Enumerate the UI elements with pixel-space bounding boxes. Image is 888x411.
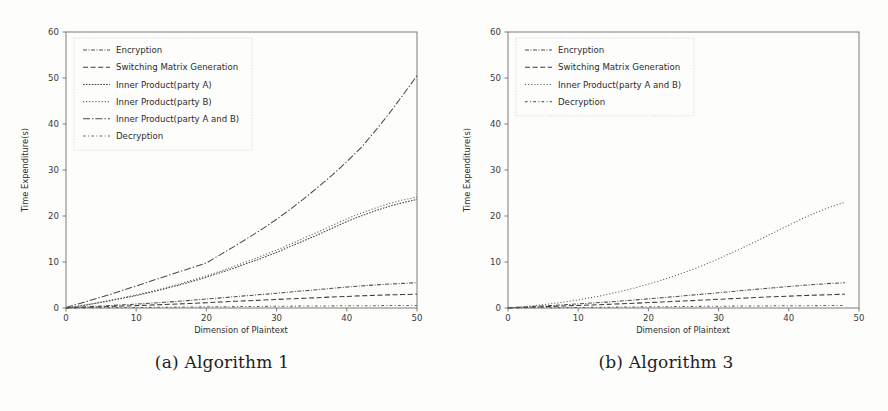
legend-label: Switching Matrix Generation: [116, 62, 238, 72]
legend-label: Decryption: [116, 131, 163, 141]
y-tick-label: 10: [48, 257, 59, 267]
legend-label: Switching Matrix Generation: [558, 62, 680, 72]
y-tick-label: 10: [490, 257, 501, 267]
y-tick-label: 60: [490, 27, 501, 37]
y-tick-label: 50: [490, 73, 501, 83]
y-tick-label: 20: [490, 211, 501, 221]
x-tick-label: 50: [854, 313, 865, 323]
chart-svg-a: 0102030405060 01020304050 EncryptionSwit…: [0, 0, 444, 355]
y-tick-label: 0: [54, 303, 59, 313]
legend-label: Inner Product(party A and B): [558, 80, 681, 90]
y-axis-title-b: Time Expenditure(s): [462, 128, 472, 213]
legend-label: Inner Product(party A and B): [116, 114, 239, 124]
legend-label: Inner Product(party B): [116, 97, 212, 107]
y-tick-label: 40: [490, 119, 501, 129]
plot-frame-b: [508, 32, 859, 308]
subplot-b: 0102030405060 01020304050 EncryptionSwit…: [444, 0, 888, 355]
x-tick-label: 50: [412, 313, 423, 323]
x-ticks-a: 01020304050: [63, 308, 422, 323]
y-tick-label: 60: [48, 27, 59, 37]
panel-algorithm-1: 0102030405060 01020304050 EncryptionSwit…: [0, 0, 444, 411]
series-group-a: [66, 76, 417, 308]
series-line: [508, 283, 845, 308]
caption-a: (a) Algorithm 1: [0, 352, 444, 372]
y-tick-label: 0: [496, 303, 501, 313]
legend-label: Decryption: [558, 97, 605, 107]
x-tick-label: 0: [505, 313, 510, 323]
x-tick-label: 0: [63, 313, 68, 323]
x-tick-label: 40: [783, 313, 794, 323]
subplot-a: 0102030405060 01020304050 EncryptionSwit…: [0, 0, 444, 355]
y-ticks-b: 0102030405060: [490, 27, 508, 313]
y-axis-title-a: Time Expenditure(s): [20, 128, 30, 213]
legend-b: EncryptionSwitching Matrix GenerationInn…: [516, 38, 694, 116]
y-tick-label: 40: [48, 119, 59, 129]
y-tick-label: 20: [48, 211, 59, 221]
x-tick-label: 20: [643, 313, 654, 323]
legend-label: Encryption: [116, 45, 162, 55]
legend-a: EncryptionSwitching Matrix GenerationInn…: [74, 38, 252, 150]
y-ticks-a: 0102030405060: [48, 27, 66, 313]
figure-container: 0102030405060 01020304050 EncryptionSwit…: [0, 0, 888, 411]
caption-b: (b) Algorithm 3: [444, 352, 888, 372]
x-tick-label: 10: [131, 313, 142, 323]
chart-svg-b: 0102030405060 01020304050 EncryptionSwit…: [444, 0, 888, 355]
plot-frame-a: [66, 32, 417, 308]
x-tick-label: 40: [341, 313, 352, 323]
legend-label: Inner Product(party A): [116, 80, 212, 90]
x-ticks-b: 01020304050: [505, 308, 864, 323]
series-line: [508, 202, 845, 308]
y-tick-label: 30: [48, 165, 59, 175]
series-group-b: [508, 202, 845, 308]
y-tick-label: 30: [490, 165, 501, 175]
series-line: [66, 294, 417, 308]
legend-label: Encryption: [558, 45, 604, 55]
x-axis-title-a: Dimension of Plaintext: [194, 325, 288, 335]
series-line: [66, 76, 417, 308]
y-tick-label: 50: [48, 73, 59, 83]
panel-algorithm-3: 0102030405060 01020304050 EncryptionSwit…: [444, 0, 888, 411]
x-axis-title-b: Dimension of Plaintext: [636, 325, 730, 335]
x-tick-label: 30: [271, 313, 282, 323]
x-tick-label: 10: [573, 313, 584, 323]
x-tick-label: 30: [713, 313, 724, 323]
x-tick-label: 20: [201, 313, 212, 323]
